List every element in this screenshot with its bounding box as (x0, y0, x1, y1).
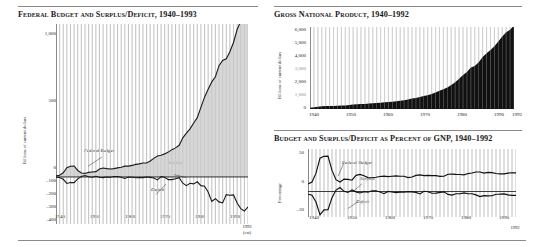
chart-panel-percent-gnp: Budget and Surplus/Deficit as Percent of… (274, 130, 526, 242)
plot-area-percent-gnp: Percentage 50 0 –30 1940 1950 1960 1970 … (274, 147, 526, 242)
y-tick-label: 1,000 (26, 31, 56, 36)
title-rule-percent-gnp (274, 130, 522, 131)
chart-panel-federal-budget: Federal Budget and Surplus/Deficit, 1940… (18, 6, 264, 242)
x-tick-label: 1960 (383, 112, 393, 117)
y-tick-label: –100 (26, 178, 56, 183)
x-tick-label: 1990 (494, 112, 504, 117)
y-tick-label: 2,000 (282, 79, 306, 84)
plot-area-gnp: Billions of current dollars 6,000 5,000 … (274, 23, 526, 121)
y-tick-label: 0 (26, 165, 56, 170)
chart-title-gnp: Gross National Product, 1940–1992 (274, 10, 526, 19)
y-tick-label: –300 (26, 204, 56, 209)
y-axis-label-percent-gnp: Percentage (277, 183, 282, 203)
y-tick-label: 6,000 (282, 27, 306, 32)
plot-area-federal-budget: Billions of current dollars 1,000 500 0 … (18, 24, 264, 239)
title-rule-federal-budget (18, 6, 258, 7)
y-tick-label: 5,000 (282, 40, 306, 45)
y-tick-label: 50 (286, 150, 304, 155)
chart-panel-gnp: Gross National Product, 1940–1992 Billio… (274, 6, 526, 121)
chart-endnote-percent-gnp: 1992 (502, 225, 528, 230)
chart-svg-federal-budget (56, 24, 248, 224)
y-tick-label: 3,000 (282, 66, 306, 71)
bottom-rule (18, 240, 526, 241)
chart-title-percent-gnp: Budget and Surplus/Deficit as Percent of… (274, 134, 526, 143)
chart-title-federal-budget: Federal Budget and Surplus/Deficit, 1940… (18, 10, 264, 19)
x-tick-label: 1940 (309, 112, 319, 117)
chart-endnote-line1: 1993 (234, 224, 260, 229)
x-tick-label: 1970 (420, 112, 430, 117)
title-rule-gnp (274, 6, 522, 7)
x-tick-label: 1950 (346, 112, 356, 117)
y-tick-label: 4,000 (282, 53, 306, 58)
chart-svg-gnp (310, 27, 514, 109)
chart-svg-percent-gnp (308, 149, 516, 217)
x-tick-label: 1992 (512, 112, 522, 117)
figure-page: Federal Budget and Surplus/Deficit, 1940… (0, 0, 535, 247)
y-tick-label: 0 (282, 105, 306, 110)
y-tick-label: 1,000 (282, 92, 306, 97)
y-axis-label-federal-budget: Billions of current dollars (22, 117, 27, 164)
x-tick-label: 1980 (457, 112, 467, 117)
chart-endnote-line2: (est) (234, 230, 260, 235)
y-tick-label: –30 (286, 207, 304, 212)
y-tick-label: –200 (26, 191, 56, 196)
y-tick-label: –400 (26, 217, 56, 222)
y-tick-label: 500 (26, 98, 56, 103)
y-tick-label: 0 (286, 179, 304, 184)
